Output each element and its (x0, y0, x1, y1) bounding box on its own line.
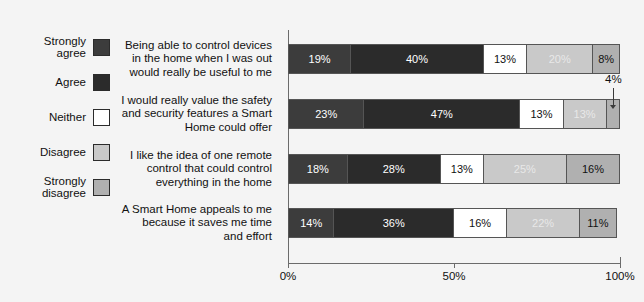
legend-color-swatch (93, 179, 110, 196)
bar-segment[interactable]: 11% (580, 208, 617, 238)
bar-row: 18%28%13%25%16% (288, 154, 620, 184)
bar-segment[interactable]: 13% (484, 44, 527, 74)
category-label: I would really value the safety and secu… (120, 92, 280, 136)
axis-end-riser (620, 257, 621, 263)
category-label: A Smart Home appeals to me because it sa… (120, 201, 280, 245)
axis-tick-mark (454, 263, 455, 268)
bar-segment[interactable]: 20% (527, 44, 593, 74)
bar-segment-value: 25% (514, 163, 536, 175)
bar-segment[interactable]: 47% (364, 99, 520, 129)
bar-segment-value: 28% (383, 163, 405, 175)
legend-item[interactable]: Strongly agree (18, 30, 110, 64)
legend-item[interactable]: Neither (18, 100, 110, 134)
stacked-bar-chart: Strongly agreeAgreeNeitherDisagreeStrong… (0, 0, 644, 302)
bar-segment-value: 47% (431, 108, 453, 120)
bar-segment[interactable]: 19% (288, 44, 351, 74)
bar-segment-value: 40% (406, 53, 428, 65)
legend-item[interactable]: Agree (18, 65, 110, 99)
bar-segment-value: 13% (530, 108, 552, 120)
bar-segment[interactable]: 40% (351, 44, 484, 74)
category-label: I like the idea of one remote control th… (120, 147, 280, 191)
axis-end-riser (288, 257, 289, 263)
legend-color-swatch (93, 74, 110, 91)
bar-segment[interactable]: 22% (507, 208, 580, 238)
bar-segment-value: 13% (451, 163, 473, 175)
chart-legend: Strongly agreeAgreeNeitherDisagreeStrong… (18, 30, 110, 205)
bar-segment[interactable]: 28% (348, 154, 441, 184)
bar-segment[interactable]: 36% (334, 208, 454, 238)
bar-segment-value: 36% (383, 217, 405, 229)
bar-segment[interactable]: 16% (454, 208, 507, 238)
bar-segment-value: 18% (307, 163, 329, 175)
bar-row: 14%36%16%22%11% (288, 208, 620, 238)
legend-item-label: Strongly disagree (42, 175, 93, 200)
bar-row: 19%40%13%20%8% (288, 44, 620, 74)
bar-segment[interactable]: 13% (520, 99, 563, 129)
bar-segment-value: 16% (582, 163, 604, 175)
bar-segment[interactable] (607, 99, 620, 129)
bar-segment-value: 8% (598, 53, 614, 65)
bar-segment[interactable]: 13% (564, 99, 607, 129)
bar-segment-value: 13% (574, 108, 596, 120)
bar-segment[interactable]: 25% (484, 154, 567, 184)
bar-segment[interactable]: 13% (441, 154, 484, 184)
bar-segment[interactable]: 18% (288, 154, 348, 184)
legend-color-swatch (93, 39, 110, 56)
bar-segment[interactable]: 14% (288, 208, 334, 238)
x-axis: 0%50%100% (288, 263, 620, 293)
legend-item-label: Strongly agree (44, 35, 93, 60)
legend-item[interactable]: Strongly disagree (18, 170, 110, 204)
legend-item-label: Agree (55, 76, 93, 89)
legend-item-label: Neither (49, 111, 93, 124)
category-label: Being able to control devices in the hom… (120, 37, 280, 81)
legend-color-swatch (93, 109, 110, 126)
legend-color-swatch (93, 144, 110, 161)
bar-segment[interactable]: 8% (593, 44, 620, 74)
bar-segment-value: 19% (309, 53, 331, 65)
bar-segment-value: 23% (315, 108, 337, 120)
legend-item[interactable]: Disagree (18, 135, 110, 169)
bar-segment-value: 11% (587, 217, 608, 229)
bar-segment-value: 16% (469, 217, 491, 229)
bar-segment-value: 14% (300, 217, 322, 229)
bar-row: 23%47%13%13% (288, 99, 620, 129)
bar-segment-value: 22% (532, 217, 554, 229)
bar-segment[interactable]: 16% (567, 154, 620, 184)
axis-tick-mark (288, 263, 289, 268)
bar-segment[interactable]: 23% (288, 99, 364, 129)
legend-item-label: Disagree (40, 146, 93, 159)
axis-tick-label: 50% (442, 270, 465, 282)
axis-tick-label: 0% (280, 270, 297, 282)
bar-segment-value: 20% (549, 53, 571, 65)
axis-tick-label: 100% (605, 270, 634, 282)
axis-tick-mark (620, 263, 621, 268)
plot-area: 19%40%13%20%8%23%47%13%13%18%28%13%25%16… (288, 30, 620, 258)
bar-segment-value: 13% (494, 53, 516, 65)
